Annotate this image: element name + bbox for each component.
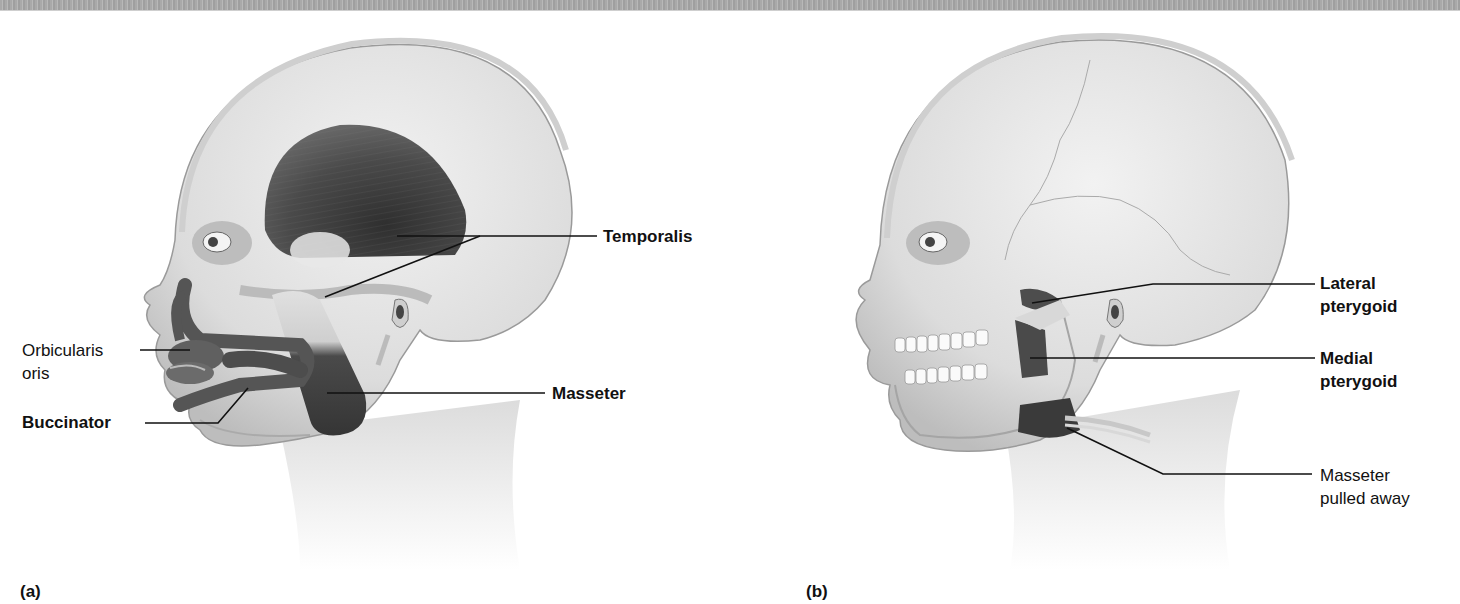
panel-label-b: (b) — [806, 582, 828, 602]
label-masseter-pulled-line1: Masseter — [1320, 464, 1410, 487]
head-a — [144, 41, 572, 570]
label-masseter-pulled-away: Masseter pulled away — [1320, 464, 1410, 510]
label-lateral-line2: pterygoid — [1320, 295, 1397, 318]
label-masseter: Masseter — [552, 382, 626, 405]
label-lateral-line1: Lateral — [1320, 272, 1397, 295]
label-orbicularis-line2: oris — [22, 362, 103, 385]
head-b — [856, 36, 1292, 570]
panel-label-a: (a) — [20, 582, 41, 602]
label-temporalis-text: Temporalis — [603, 227, 692, 246]
label-buccinator-text: Buccinator — [22, 413, 111, 432]
label-orbicularis-oris: Orbicularis oris — [22, 339, 103, 385]
label-temporalis: Temporalis — [603, 225, 692, 248]
label-masseter-text: Masseter — [552, 384, 626, 403]
label-medial-pterygoid: Medial pterygoid — [1320, 347, 1397, 393]
label-medial-line2: pterygoid — [1320, 370, 1397, 393]
label-orbicularis-line1: Orbicularis — [22, 339, 103, 362]
label-buccinator: Buccinator — [22, 411, 111, 434]
anatomy-illustration — [0, 0, 1460, 604]
label-masseter-pulled-line2: pulled away — [1320, 487, 1410, 510]
label-lateral-pterygoid: Lateral pterygoid — [1320, 272, 1397, 318]
label-medial-line1: Medial — [1320, 347, 1397, 370]
